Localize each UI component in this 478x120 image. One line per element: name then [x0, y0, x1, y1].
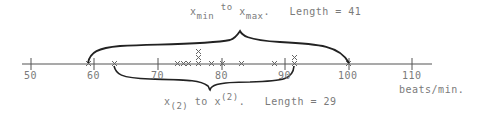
- top-brace: [88, 31, 349, 63]
- period: .: [264, 6, 271, 17]
- to-word: to: [221, 2, 233, 12]
- x-symbol: x: [239, 6, 246, 17]
- tick-label-80: 80: [215, 70, 228, 81]
- top-annotation: xmin to xmax. Length = 41: [190, 6, 361, 17]
- x-symbol: x: [214, 96, 221, 107]
- to-word: to: [195, 96, 208, 107]
- dot-plot-diagram: 50 60 70 80 90 100 110 beats/min. xmin t…: [0, 0, 478, 120]
- unit-label: beats/min.: [399, 84, 464, 95]
- bottom-annotation: x(2) to x(2). Length = 29: [164, 96, 337, 107]
- tick-label-60: 60: [87, 70, 100, 81]
- tick-label-50: 50: [24, 70, 37, 81]
- tick-label-100: 100: [338, 70, 358, 81]
- top-length-text: Length = 41: [290, 6, 362, 17]
- min-subscript: min: [197, 11, 215, 21]
- period: .: [239, 96, 246, 107]
- bottom-brace: [114, 66, 294, 90]
- tick-label-110: 110: [402, 70, 422, 81]
- tick-label-70: 70: [151, 70, 164, 81]
- upper-superscript: (2): [221, 92, 239, 102]
- x-symbol: x: [164, 96, 171, 107]
- x-symbol: x: [190, 6, 197, 17]
- bottom-length-text: Length = 29: [265, 96, 337, 107]
- max-subscript: max: [246, 11, 264, 21]
- tick-label-90: 90: [278, 70, 291, 81]
- lower-subscript: (2): [171, 101, 189, 111]
